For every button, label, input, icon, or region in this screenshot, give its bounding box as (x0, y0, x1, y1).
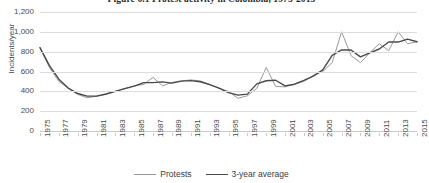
legend-item-3-year-average[interactable]: 3-year average (206, 170, 289, 179)
x-axis-tick-label: 2007 (345, 119, 353, 137)
legend-swatch-3-year-average (206, 174, 228, 175)
legend-swatch-protests (134, 174, 156, 175)
x-axis-tick (115, 133, 116, 136)
x-axis-tick (304, 133, 305, 136)
x-axis-tick (153, 133, 154, 136)
x-axis-tick-label: 1979 (81, 119, 89, 137)
x-axis-tick (247, 133, 248, 136)
x-axis-tick (342, 133, 343, 136)
x-axis-tick-label: 1985 (138, 119, 146, 137)
x-axis-tick-label: 1993 (213, 119, 221, 137)
y-axis-tick-label: 600 (21, 68, 34, 76)
y-axis-tick-label: 800 (21, 48, 34, 56)
x-axis-tick-label: 2011 (383, 120, 391, 137)
x-axis-tick-label: 1977 (62, 119, 70, 137)
x-axis-tick (323, 133, 324, 136)
series-line (40, 32, 417, 98)
x-axis-line (40, 131, 417, 132)
x-axis-tick-label: 2001 (289, 119, 297, 137)
x-axis-tick-label: 2015 (421, 119, 429, 137)
x-axis-tick-label: 1997 (251, 119, 259, 137)
x-axis-tick-label: 1987 (157, 119, 165, 137)
y-axis-tick-label: 1,000 (14, 28, 34, 36)
y-axis-tick-label: 0 (30, 127, 34, 135)
x-axis-tick (134, 133, 135, 136)
x-axis-tick (417, 133, 418, 136)
x-axis-tick-label: 1983 (119, 119, 127, 137)
x-axis-tick-label: 1989 (175, 119, 183, 137)
x-axis-tick (97, 133, 98, 136)
x-axis-tick (191, 133, 192, 136)
x-axis-tick-label: 1995 (232, 119, 240, 137)
x-axis-tick-label: 1991 (194, 119, 202, 137)
x-axis-labels: 1975197719791981198319851987198919911993… (40, 133, 417, 167)
gridline (40, 72, 417, 73)
legend-label-3-year-average: 3-year average (232, 170, 289, 179)
x-axis-tick (59, 133, 60, 136)
x-axis-tick (40, 133, 41, 136)
gridline (40, 32, 417, 33)
plot-area (40, 12, 417, 131)
x-axis-tick-label: 2009 (364, 119, 372, 137)
x-axis-tick (398, 133, 399, 136)
y-axis-title: Incidents/year (7, 19, 16, 79)
y-axis-tick-label: 400 (21, 87, 34, 95)
legend-label-protests: Protests (160, 170, 191, 179)
chart-legend: Protests 3-year average (0, 167, 423, 181)
y-axis-tick-label: 1,200 (14, 8, 34, 16)
x-axis-tick (360, 133, 361, 136)
gridline (40, 52, 417, 53)
x-axis-tick (210, 133, 211, 136)
x-axis-tick-label: 2003 (307, 119, 315, 137)
gridline (40, 12, 417, 13)
y-axis-tick-label: 200 (21, 107, 34, 115)
x-axis-tick-label: 1981 (100, 119, 108, 137)
x-axis-tick (379, 133, 380, 136)
legend-item-protests[interactable]: Protests (134, 170, 191, 179)
x-axis-tick (229, 133, 230, 136)
gridline (40, 91, 417, 92)
x-axis-tick-label: 1999 (270, 119, 278, 137)
x-axis-tick (285, 133, 286, 136)
x-axis-tick (266, 133, 267, 136)
y-axis-labels: 1,2001,0008006004002000 (0, 0, 36, 143)
gridline (40, 111, 417, 112)
series-line (40, 39, 417, 96)
x-axis-tick-label: 1975 (44, 119, 52, 137)
x-axis-tick-label: 2005 (326, 119, 334, 137)
x-axis-tick (78, 133, 79, 136)
chart-title: Figure 6.1 Protest activity in Colombia,… (0, 0, 423, 5)
x-axis-tick-label: 2013 (402, 119, 410, 137)
x-axis-tick (172, 133, 173, 136)
